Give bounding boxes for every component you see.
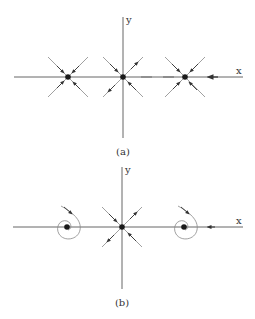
y-axis-label: y <box>125 14 132 25</box>
panel-a-caption: (a) <box>116 146 130 157</box>
x-axis-label: x <box>236 215 242 226</box>
fixed-point-right-spiral <box>175 206 215 239</box>
y-axis-label: y <box>124 164 131 175</box>
panel-a: x y (a) <box>14 14 243 157</box>
x-axis-label: x <box>236 65 242 76</box>
fixed-point-left-spiral <box>58 206 81 239</box>
panel-b: x y (b) <box>13 164 243 308</box>
phase-portrait-figure: x y (a) x y ( <box>0 0 255 319</box>
panel-b-caption: (b) <box>115 297 129 308</box>
